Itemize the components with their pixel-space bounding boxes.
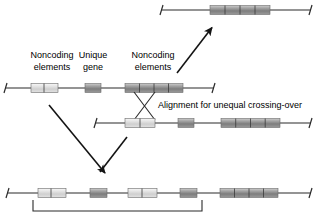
noncoding-element-block-3 [220, 189, 278, 198]
unequal-crossing-over-x [134, 92, 155, 120]
diagram-canvas: Noncoding elements Unique gene Noncoding… [0, 0, 318, 217]
chromosome-product-bottom [6, 188, 312, 198]
noncoding-element-block-1 [38, 189, 66, 198]
duplication-bracket [33, 200, 202, 211]
arrow-lower-to-bottom-product [100, 137, 127, 172]
unique-gene-block [85, 84, 101, 93]
chromosome-parent-upper [4, 83, 215, 93]
noncoding-element-block [210, 6, 270, 15]
noncoding-element-block-left [31, 84, 58, 93]
label-noncoding-left-line2: elements [34, 62, 71, 72]
chromosome-product-top [160, 5, 312, 15]
noncoding-element-block-2 [128, 189, 157, 198]
label-noncoding-right-line2: elements [135, 62, 172, 72]
label-unique-gene-line1: Unique [79, 50, 108, 60]
label-unique-gene-line2: gene [83, 62, 103, 72]
chromosome-parent-lower [94, 118, 312, 128]
noncoding-element-block-right [125, 84, 183, 93]
unique-gene-block-2 [180, 189, 197, 198]
label-alignment-for-unequal-crossing-over: Alignment for unequal crossing-over [158, 100, 302, 110]
unique-gene-block [178, 119, 194, 128]
label-noncoding-right-line1: Noncoding [131, 50, 174, 60]
noncoding-element-block-left [125, 119, 155, 128]
noncoding-element-block-right [221, 119, 280, 128]
unique-gene-block-1 [90, 189, 107, 198]
unequal-crossing-over-diagram: Noncoding elements Unique gene Noncoding… [0, 0, 318, 217]
arrow-to-top-product [177, 28, 212, 74]
arrow-upper-to-bottom-product [49, 105, 105, 173]
label-noncoding-left-line1: Noncoding [30, 50, 73, 60]
